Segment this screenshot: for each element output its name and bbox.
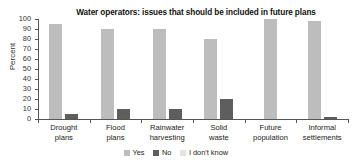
bar-group	[141, 19, 193, 119]
bar-no	[117, 109, 130, 119]
y-tick-100: 100	[0, 19, 38, 20]
y-tick-70: 70	[0, 49, 38, 50]
legend-item[interactable]: Yes	[124, 148, 145, 157]
y-tick-label: 80	[23, 34, 31, 44]
y-tick-20: 20	[0, 99, 38, 100]
x-axis-label-line: waste	[193, 133, 245, 143]
y-tick-label: 100	[19, 14, 31, 24]
bar-group	[296, 19, 348, 119]
x-axis-label-line: plans	[38, 133, 90, 143]
y-tick-80: 80	[0, 39, 38, 40]
y-tick-label: 10	[23, 104, 31, 114]
legend-label: No	[162, 148, 171, 157]
bar-yes	[153, 29, 166, 119]
y-tick-label: 20	[23, 94, 31, 104]
x-axis-label: Droughtplans	[38, 123, 90, 142]
x-separator-tick	[348, 119, 349, 123]
y-tick-label: 50	[23, 64, 31, 74]
y-tick-0: 0	[0, 119, 38, 120]
legend-item[interactable]: I don't know	[180, 148, 228, 157]
y-tick-label: 70	[23, 44, 31, 54]
bar-no	[220, 99, 233, 119]
plot-area	[38, 19, 348, 119]
x-axis-label: Informalsettlements	[296, 123, 348, 142]
bar-yes	[308, 21, 321, 119]
bar-group	[245, 19, 297, 119]
legend-swatch-icon	[124, 150, 130, 156]
y-tick-10: 10	[0, 109, 38, 110]
x-axis-label: Rainwaterharvesting	[141, 123, 193, 142]
y-tick-label: 60	[23, 54, 31, 64]
x-axis-label-line: Rainwater	[141, 123, 193, 133]
y-tick-label: 90	[23, 24, 31, 34]
x-axis-label-line: population	[245, 133, 297, 143]
legend-label: I don't know	[189, 148, 228, 157]
y-tick-60: 60	[0, 59, 38, 60]
bar-no	[65, 114, 78, 119]
bar-group-bars	[296, 19, 348, 119]
y-tick-50: 50	[0, 69, 38, 70]
chart-legend: YesNoI don't know	[0, 148, 352, 157]
bar-group-bars	[141, 19, 193, 119]
x-axis-label-line: Flood	[90, 123, 142, 133]
x-axis-label-line: Solid	[193, 123, 245, 133]
legend-swatch-icon	[153, 150, 159, 156]
legend-label: Yes	[132, 148, 144, 157]
y-tick-30: 30	[0, 89, 38, 90]
bar-group-bars	[90, 19, 142, 119]
x-axis-label-line: Drought	[38, 123, 90, 133]
x-axis-label: Solidwaste	[193, 123, 245, 142]
bar-yes	[204, 39, 217, 119]
bar-group-bars	[38, 19, 90, 119]
bar-yes	[264, 19, 277, 119]
chart-title: Water operators: issues that should be i…	[48, 8, 344, 17]
x-axis-label-line: Future	[245, 123, 297, 133]
legend-item[interactable]: No	[153, 148, 171, 157]
x-axis-label-line: Informal	[296, 123, 348, 133]
y-tick-40: 40	[0, 79, 38, 80]
legend-swatch-icon	[180, 150, 186, 156]
y-tick-label: 40	[23, 74, 31, 84]
x-axis-label: Futurepopulation	[245, 123, 297, 142]
y-tick-90: 90	[0, 29, 38, 30]
y-tick-label: 30	[23, 84, 31, 94]
bar-group-bars	[193, 19, 245, 119]
x-axis-label-line: settlements	[296, 133, 348, 143]
bar-group-bars	[245, 19, 297, 119]
bar-yes	[49, 24, 62, 119]
x-axis-label-line: harvesting	[141, 133, 193, 143]
bar-no	[324, 117, 337, 119]
x-axis-label: Floodplans	[90, 123, 142, 142]
y-tick-label: 0	[27, 114, 31, 124]
bar-yes	[101, 29, 114, 119]
bar-group	[38, 19, 90, 119]
bar-group	[90, 19, 142, 119]
bar-no	[169, 109, 182, 119]
bar-group	[193, 19, 245, 119]
y-axis-title: Percent	[8, 29, 17, 85]
x-axis-label-line: plans	[90, 133, 142, 143]
bar-chart: Water operators: issues that should be i…	[0, 0, 352, 163]
